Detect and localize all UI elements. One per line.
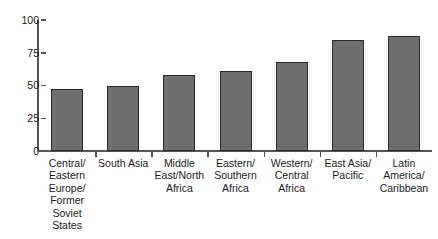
x-axis-category-label-line: Caribbean: [376, 182, 432, 194]
x-axis-category-labels: Central/EasternEurope/FormerSovietStates…: [39, 157, 432, 237]
x-axis-category-label-line: South Asia: [95, 157, 151, 169]
x-axis-category-label-line: Former: [39, 194, 95, 206]
x-axis-category-label: East Asia/Pacific: [320, 157, 376, 182]
x-axis-category-label: South Asia: [95, 157, 151, 169]
x-axis-category-label-line: Eastern: [39, 169, 95, 181]
x-axis-category-label-line: Pacific: [320, 169, 376, 181]
bar: [388, 36, 420, 151]
bar: [276, 62, 308, 151]
x-axis-category-label-line: Central: [264, 169, 320, 181]
x-axis-category-label-line: Latin: [376, 157, 432, 169]
x-axis-category-label: LatinAmerica/Caribbean: [376, 157, 432, 194]
bar: [107, 86, 139, 152]
x-axis-category-label-line: Africa: [264, 182, 320, 194]
plot-area: [39, 20, 432, 151]
x-axis-category-label: MiddleEast/NorthAfrica: [151, 157, 207, 194]
x-axis-category-label: Central/EasternEurope/FormerSovietStates: [39, 157, 95, 231]
x-axis-category-label-line: States: [39, 219, 95, 231]
x-axis-category-label-line: East/North: [151, 169, 207, 181]
x-axis-category-label-line: East Asia/: [320, 157, 376, 169]
x-axis-category-label-line: Middle: [151, 157, 207, 169]
x-axis-category-label-line: Central/: [39, 157, 95, 169]
x-axis-category-label: Eastern/SouthernAfrica: [207, 157, 263, 194]
bar: [220, 71, 252, 151]
x-axis-category-label-line: America/: [376, 169, 432, 181]
bar: [163, 75, 195, 151]
x-axis-category-label-line: Western/: [264, 157, 320, 169]
bar: [332, 40, 364, 151]
x-axis-category-label-line: Africa: [151, 182, 207, 194]
x-axis-category-label: Western/CentralAfrica: [264, 157, 320, 194]
x-axis-category-label-line: Europe/: [39, 182, 95, 194]
bar-chart: 0255075100 Central/EasternEurope/FormerS…: [0, 0, 438, 239]
x-axis-category-label-line: Eastern/: [207, 157, 263, 169]
x-axis-category-label-line: Soviet: [39, 207, 95, 219]
x-axis-category-label-line: Southern: [207, 169, 263, 181]
x-axis-category-label-line: Africa: [207, 182, 263, 194]
bar: [51, 89, 83, 151]
